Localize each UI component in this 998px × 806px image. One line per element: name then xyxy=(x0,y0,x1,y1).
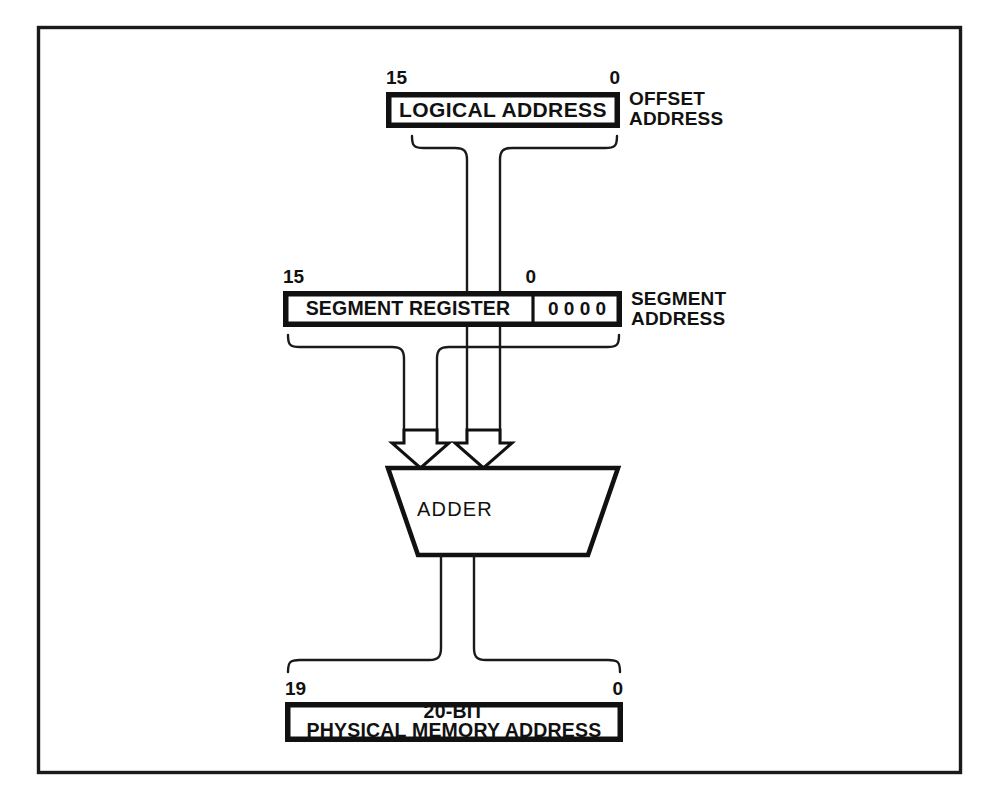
address-translation-diagram: 15 0 LOGICAL ADDRESS OFFSET ADDRESS 15 0… xyxy=(0,0,998,806)
offset-address-label-line2: ADDRESS xyxy=(629,108,723,129)
segment-register-tick-high: 15 xyxy=(283,266,305,287)
logical-address-label: LOGICAL ADDRESS xyxy=(399,98,607,121)
offset-address-label-line1: OFFSET xyxy=(629,88,705,109)
segment-register-label: SEGMENT REGISTER xyxy=(306,297,511,319)
logical-address-tick-high: 15 xyxy=(386,67,408,88)
physical-address-tick-high: 19 xyxy=(285,678,306,699)
physical-address-connector xyxy=(288,555,620,672)
physical-address-label-line2: PHYSICAL MEMORY ADDRESS xyxy=(307,719,602,741)
segment-address-label-line1: SEGMENT xyxy=(631,288,727,309)
logical-address-brace-left xyxy=(412,136,467,440)
adder-group: ADDER xyxy=(388,468,618,555)
segment-register-group: 15 0 SEGMENT REGISTER 0 0 0 0 SEGMENT AD… xyxy=(283,266,727,440)
segment-register-brace-right xyxy=(437,335,619,440)
segment-address-label-line2: ADDRESS xyxy=(631,308,725,329)
offset-input-arrow-icon xyxy=(455,430,512,468)
physical-address-brace-left xyxy=(288,555,441,672)
segment-register-brace-left xyxy=(288,335,404,440)
physical-address-brace-right xyxy=(474,555,620,672)
segment-register-tick-low: 0 xyxy=(525,266,536,287)
physical-address-group: 19 0 20-BIT PHYSICAL MEMORY ADDRESS xyxy=(285,678,623,742)
figure-root: 15 0 LOGICAL ADDRESS OFFSET ADDRESS 15 0… xyxy=(0,0,998,806)
physical-address-tick-low: 0 xyxy=(612,678,623,699)
logical-address-tick-low: 0 xyxy=(609,67,620,88)
adder-label: ADDER xyxy=(417,498,493,520)
logical-address-brace-right xyxy=(500,136,617,440)
segment-register-zeros: 0 0 0 0 xyxy=(548,298,606,319)
adder-input-arrows xyxy=(392,430,512,468)
segment-input-arrow-icon xyxy=(392,430,449,468)
